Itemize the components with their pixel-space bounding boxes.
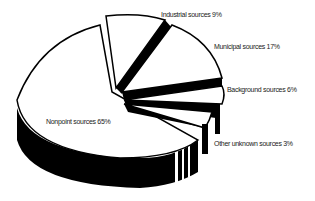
label-other: Other unknown sources 3% <box>214 140 293 148</box>
label-industrial: Industrial sources 9% <box>161 11 222 19</box>
label-background: Background sources 6% <box>227 86 297 94</box>
pie-chart <box>0 0 315 201</box>
label-municipal: Municipal sources 17% <box>214 43 280 51</box>
label-nonpoint: Nonpoint sources 65% <box>46 118 110 126</box>
